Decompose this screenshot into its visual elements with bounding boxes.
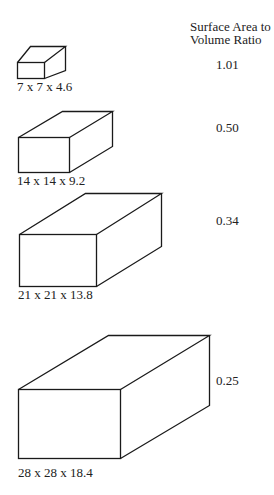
box-3-dimensions: 21 x 21 x 13.8 (18, 287, 93, 303)
box-2-ratio: 0.50 (216, 120, 239, 136)
box-4 (19, 336, 210, 459)
box-1-ratio: 1.01 (216, 57, 239, 73)
box-1-dimensions: 7 x 7 x 4.6 (17, 79, 72, 95)
box-4-dimensions: 28 x 28 x 18.4 (18, 465, 93, 481)
box-3-ratio: 0.34 (216, 213, 239, 229)
box-2-dimensions: 14 x 14 x 9.2 (17, 173, 85, 189)
box-4-ratio: 0.25 (216, 373, 239, 389)
box-2 (19, 112, 113, 173)
box-1 (18, 47, 66, 79)
boxes-drawing (0, 0, 274, 495)
box-3 (20, 194, 162, 287)
